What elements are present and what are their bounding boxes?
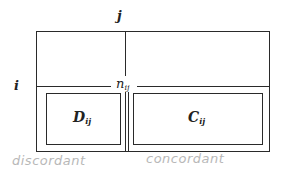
vertical-divider-2 — [128, 86, 129, 152]
row-divider-right — [137, 86, 270, 87]
handwritten-concordant: concordant — [146, 151, 224, 166]
cell-label-sub: ij — [124, 83, 129, 92]
discordant-label-main: D — [73, 109, 85, 125]
concordant-label: Cij — [188, 109, 205, 126]
discordant-label: Dij — [73, 109, 91, 126]
discordant-label-sub: ij — [85, 116, 91, 126]
row-label: i — [14, 78, 19, 93]
row-divider-left — [36, 86, 111, 87]
concordant-label-main: C — [188, 109, 199, 125]
handwritten-discordant: discordant — [12, 153, 86, 168]
cell-label: nij — [115, 76, 130, 92]
concordant-label-sub: ij — [199, 116, 205, 126]
column-label: j — [117, 8, 122, 23]
